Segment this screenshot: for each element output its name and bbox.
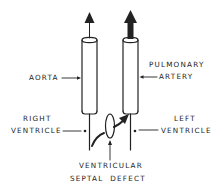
left-ventricle-label-line1: LEFT bbox=[174, 114, 196, 123]
aorta-tube bbox=[82, 37, 97, 114]
right-ventricle-label-line1: RIGHT bbox=[23, 114, 51, 123]
left-ventricle-dot-icon bbox=[134, 130, 137, 133]
pulmonary-artery-label-line1: PULMONARY bbox=[149, 60, 204, 69]
septal-defect-ellipse bbox=[106, 114, 115, 138]
aorta-outflow-arrow-icon bbox=[85, 12, 95, 38]
left-ventricle-label-line2: VENTRICLE bbox=[161, 126, 212, 135]
vsd-diagram: AORTA PULMONARY ARTERY RIGHT VENTRICLE L… bbox=[0, 0, 219, 190]
shunt-flow-arrow-icon bbox=[92, 114, 129, 146]
pulmonary-outflow-arrow-icon bbox=[124, 10, 137, 39]
vsd-label-line2: SEPTAL DEFECT bbox=[70, 174, 146, 183]
pulmonary-artery-label-line2: ARTERY bbox=[159, 72, 193, 81]
aorta-label: AORTA bbox=[29, 73, 59, 82]
right-ventricle-label-line2: VENTRICLE bbox=[11, 126, 62, 135]
vsd-label-line1: VENTRICULAR bbox=[79, 161, 143, 170]
right-ventricle-dot-icon bbox=[84, 130, 87, 133]
vsd-pointer-arrow-icon bbox=[108, 140, 112, 160]
pulmonary-artery-tube bbox=[123, 37, 138, 114]
